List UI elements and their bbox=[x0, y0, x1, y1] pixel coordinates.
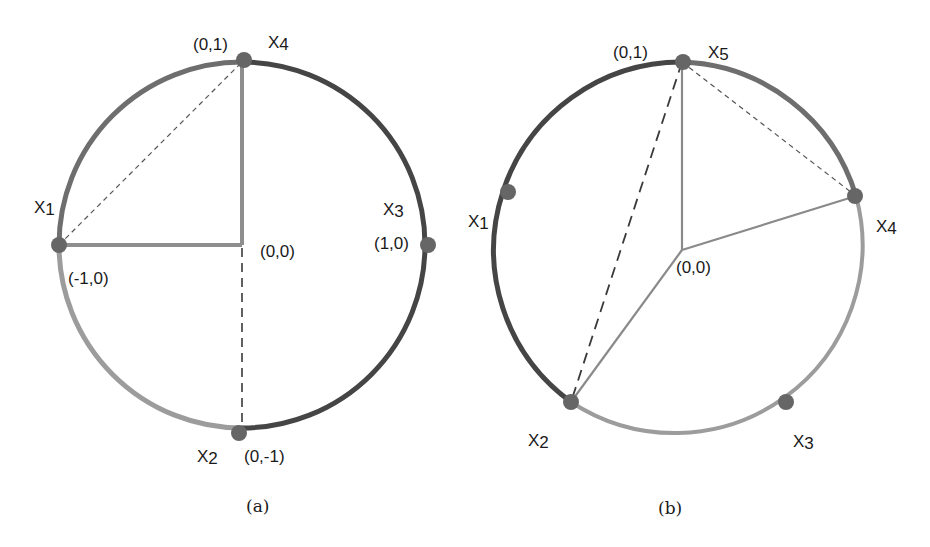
figure-panel: (0,1) X4 X1 (-1,0) X3 (1,0) (0,0) X2 (0,… bbox=[0, 0, 930, 547]
point-label-x1: X1 bbox=[34, 198, 55, 219]
point-label-x2: X2 bbox=[528, 431, 549, 452]
point-label-x3: X3 bbox=[793, 432, 814, 453]
arc-x4-x3-x2 bbox=[571, 196, 863, 433]
point-label-x3: X3 bbox=[383, 200, 404, 221]
point-x5 bbox=[675, 54, 691, 70]
point-label-x5: X5 bbox=[708, 43, 729, 64]
figure-a: (0,1) X4 X1 (-1,0) X3 (1,0) (0,0) X2 (0,… bbox=[34, 33, 436, 516]
chord-x1-x4 bbox=[59, 62, 242, 245]
center-label-b: (0,0) bbox=[676, 258, 711, 277]
coord-label-x5: (0,1) bbox=[613, 43, 648, 62]
center-label-a: (0,0) bbox=[260, 242, 295, 261]
point-x4 bbox=[847, 188, 863, 204]
point-label-x1: X1 bbox=[468, 212, 489, 233]
coord-label-x2: (0,-1) bbox=[244, 447, 285, 466]
radius-o-x4 bbox=[682, 196, 856, 250]
point-x1 bbox=[500, 184, 516, 200]
radius-o-x2 bbox=[571, 250, 682, 402]
arc-x2-x1-x5 bbox=[494, 62, 682, 402]
point-x4 bbox=[236, 52, 252, 68]
coord-label-x1: (-1,0) bbox=[68, 269, 109, 288]
caption-b: (b) bbox=[658, 498, 682, 518]
chord-x5-x4 bbox=[682, 62, 856, 196]
point-x3 bbox=[778, 394, 794, 410]
chord-x5-x2 bbox=[571, 62, 682, 402]
point-label-x2: X2 bbox=[197, 447, 218, 468]
point-x1 bbox=[51, 237, 67, 253]
point-label-x4: X4 bbox=[876, 217, 897, 238]
coord-label-x3: (1,0) bbox=[374, 234, 409, 253]
point-x2 bbox=[563, 394, 579, 410]
point-x3 bbox=[420, 237, 436, 253]
coord-label-x4: (0,1) bbox=[193, 35, 228, 54]
point-x2 bbox=[231, 425, 247, 441]
point-label-x4: X4 bbox=[268, 33, 289, 54]
figure-b: (0,1) X5 X1 X4 (0,0) X2 X3 (b) bbox=[468, 43, 897, 518]
diagram-canvas: (0,1) X4 X1 (-1,0) X3 (1,0) (0,0) X2 (0,… bbox=[0, 0, 930, 547]
caption-a: (a) bbox=[246, 496, 269, 516]
